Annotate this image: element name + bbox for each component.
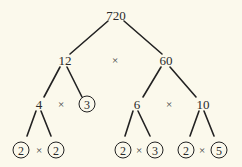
- edge-6-to-2: [125, 111, 133, 136]
- prime-circle-2: 2: [115, 142, 132, 159]
- edge-60-to-10: [170, 67, 196, 97]
- edge-12-to-3: [67, 67, 82, 97]
- times-sign: ×: [58, 99, 64, 110]
- edge-6-to-3: [138, 111, 150, 136]
- node-60: 60: [160, 54, 173, 67]
- times-sign: ×: [166, 99, 172, 110]
- root-node-720: 720: [106, 9, 126, 22]
- node-10: 10: [197, 98, 210, 111]
- factor-tree-diagram: 720 12 × 60 4 × 3 6 × 10 2 × 2 2 × 3 2 ×…: [0, 0, 242, 167]
- times-sign: ×: [136, 145, 142, 156]
- edge-720-to-12: [70, 21, 108, 54]
- node-12: 12: [59, 54, 72, 67]
- edge-10-to-2: [190, 111, 199, 136]
- prime-circle-3: 3: [79, 96, 96, 113]
- times-sign: ×: [199, 145, 205, 156]
- edge-10-to-5: [204, 111, 214, 136]
- node-6: 6: [134, 98, 141, 111]
- edge-12-to-4: [44, 67, 60, 97]
- times-sign: ×: [112, 55, 118, 66]
- edge-4-to-2: [41, 111, 51, 136]
- prime-circle-2: 2: [178, 142, 195, 159]
- edge-4-to-2: [27, 111, 36, 136]
- node-4: 4: [36, 98, 43, 111]
- prime-circle-3: 3: [147, 142, 164, 159]
- prime-circle-2: 2: [48, 142, 65, 159]
- edge-720-to-60: [124, 21, 162, 54]
- prime-circle-5: 5: [211, 142, 228, 159]
- times-sign: ×: [36, 145, 42, 156]
- edge-60-to-6: [143, 67, 161, 97]
- prime-circle-2: 2: [13, 142, 30, 159]
